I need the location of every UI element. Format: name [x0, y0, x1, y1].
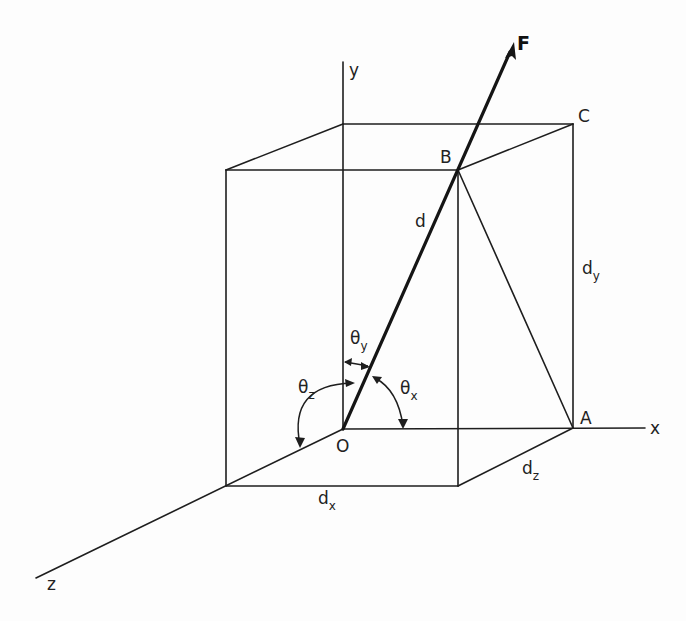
top-left-slant-edge — [226, 124, 343, 170]
origin-label: O — [336, 436, 349, 456]
x-axis — [343, 428, 645, 429]
theta-z-arrowhead-icon-2 — [295, 437, 305, 448]
theta-x-label: θx — [400, 378, 418, 403]
z-axis-label: z — [47, 574, 56, 594]
force-vector-diagram: F y x z C B A O d dy dz dx θy θx θz — [0, 0, 686, 621]
cropped-caption-text: ... — [0, 604, 686, 621]
diagram-canvas: F y x z C B A O d dy dz dx θy θx θz ... — [0, 0, 686, 621]
z-axis — [36, 429, 343, 578]
point-B-label: B — [440, 147, 452, 167]
theta-x-arrowhead-icon-2 — [398, 419, 408, 429]
force-label: F — [517, 32, 530, 54]
distance-d-label: d — [415, 211, 426, 231]
bottom-right-slant-edge — [458, 428, 573, 486]
force-vector-line — [343, 52, 510, 429]
distance-dz-label: dz — [522, 458, 539, 483]
line-B-A — [458, 170, 573, 428]
x-axis-label: x — [650, 418, 660, 438]
y-axis-label: y — [349, 60, 359, 80]
theta-x-arrowhead-icon — [372, 376, 382, 384]
distance-dx-label: dx — [318, 488, 336, 513]
force-arrowhead-icon — [505, 42, 516, 60]
theta-z-label: θz — [298, 377, 315, 402]
point-C-label: C — [578, 106, 590, 126]
theta-y-arrowhead-icon — [344, 358, 352, 366]
theta-y-label: θy — [350, 328, 368, 353]
distance-dy-label: dy — [582, 258, 600, 283]
theta-z-arrowhead-icon — [345, 379, 355, 387]
theta-x-arc — [375, 378, 403, 426]
point-A-label: A — [580, 408, 592, 428]
